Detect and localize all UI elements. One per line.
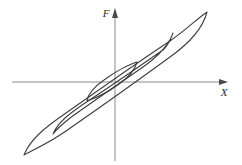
hysteresis-plot: F X <box>0 0 242 165</box>
horizontal-axis-label: X <box>220 86 229 98</box>
horizontal-axis-arrowhead <box>219 79 228 85</box>
vertical-axis-label: F <box>102 7 110 19</box>
middle-loop-curve <box>53 33 173 134</box>
hysteresis-figure: F X <box>0 0 242 165</box>
vertical-axis-arrowhead <box>112 8 118 18</box>
